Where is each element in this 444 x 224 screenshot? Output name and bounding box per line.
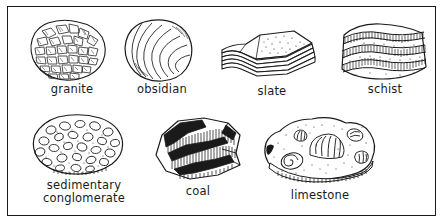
specimen-coal: coal (144, 113, 252, 217)
specimen-label-coal: coal (144, 185, 252, 198)
specimen-slate: slate (216, 19, 328, 109)
specimen-label-schist: schist (330, 83, 440, 96)
fossil-shell-small-1 (294, 130, 307, 141)
figure-frame: granite (7, 6, 436, 216)
specimen-limestone: limestone (250, 113, 390, 217)
specimen-label-obsidian: obsidian (108, 83, 216, 96)
specimen-label-slate: slate (216, 85, 328, 98)
slate-rock-icon (216, 19, 328, 89)
obsidian-rock-icon (108, 17, 216, 87)
specimen-label-sedimentary-conglomerate: sedimentary conglomerate (20, 179, 148, 204)
coal-rock-icon (144, 113, 252, 189)
specimen-sedimentary-conglomerate: sedimentary conglomerate (20, 113, 148, 217)
conglomerate-rock-icon (20, 113, 148, 183)
limestone-rock-icon (250, 113, 390, 193)
specimen-label-limestone: limestone (250, 189, 390, 202)
specimen-schist: schist (330, 17, 440, 109)
specimen-obsidian: obsidian (108, 17, 216, 109)
rock-chart-figure: granite (0, 0, 444, 224)
schist-rock-icon (330, 17, 440, 87)
fossil-shell-small-3 (355, 151, 369, 163)
